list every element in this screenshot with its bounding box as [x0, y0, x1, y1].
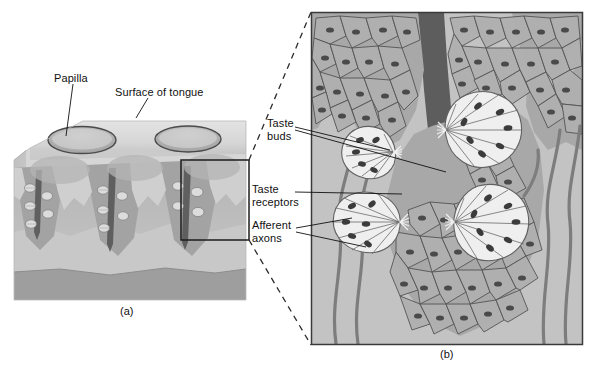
leader-surface-of-tongue [136, 98, 148, 118]
connector-line-bottom [249, 240, 311, 345]
label-afferent-axons-line2: axons [252, 232, 291, 245]
label-taste-receptors: Taste receptors [252, 183, 299, 208]
connector-lines [249, 12, 311, 345]
panel-a-illustration [14, 121, 249, 300]
papilla-domes [30, 154, 240, 184]
label-taste-buds-line1: Taste [267, 117, 294, 130]
taste-bud-figure: Papilla Surface of tongue Taste buds Tas… [0, 0, 598, 368]
label-taste-buds: Taste buds [267, 117, 294, 142]
label-afferent-axons-line1: Afferent [252, 219, 291, 232]
panel-b-illustration [312, 13, 583, 345]
label-taste-receptors-line2: receptors [252, 196, 299, 209]
label-papilla: Papilla [54, 72, 88, 85]
panel-a-letter: (a) [120, 305, 133, 317]
illustration-svg [0, 0, 598, 368]
label-afferent-axons: Afferent axons [252, 219, 291, 244]
label-surface-of-tongue: Surface of tongue [115, 86, 204, 99]
label-taste-buds-line2: buds [267, 130, 294, 143]
panel-b-letter: (b) [440, 348, 453, 360]
label-taste-receptors-line1: Taste [252, 183, 299, 196]
